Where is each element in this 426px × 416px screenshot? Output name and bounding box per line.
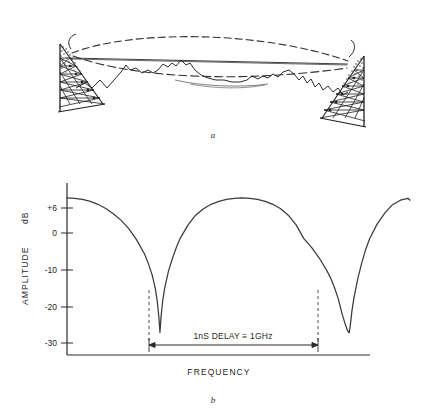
delay-span-annotation-label: 1nS DELAY ≡ 1GHz: [193, 331, 272, 341]
ytick-label-1: 0: [52, 228, 57, 238]
ytick-label-2: -10: [45, 265, 58, 275]
ytick-label-0: +6: [47, 203, 57, 213]
ytick-label-4: -30: [45, 338, 58, 348]
ytick-label-3: -20: [45, 302, 58, 312]
chart-x-axis-title: FREQUENCY: [187, 367, 250, 377]
figure-container: +6 0 -10 -20 -30 AMPLITUDE dB 1nS DEL: [0, 0, 426, 416]
panel-a-caption: a: [193, 130, 233, 140]
figure-svg: +6 0 -10 -20 -30 AMPLITUDE dB 1nS DEL: [0, 0, 426, 416]
chart-y-axis-title-unit: dB: [20, 211, 30, 224]
panel-b-caption: b: [193, 395, 233, 405]
chart-y-axis-title-amplitude: AMPLITUDE: [20, 246, 30, 305]
